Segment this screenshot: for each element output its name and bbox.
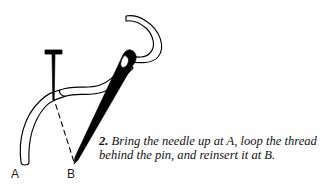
caption-step-number: 2. <box>99 134 108 148</box>
caption-block: 2. Bring the needle up at A, loop the th… <box>99 134 331 162</box>
point-label-b: B <box>67 168 75 180</box>
illustration-figure: A B 2. Bring the needle up at A, loop th… <box>0 0 334 192</box>
point-label-a: A <box>11 168 19 180</box>
caption-text: Bring the needle up at A, loop the threa… <box>99 134 317 162</box>
pin-shaft-icon <box>52 54 55 100</box>
pin-head-icon <box>45 50 62 54</box>
stitch-diagram-svg <box>0 0 334 192</box>
